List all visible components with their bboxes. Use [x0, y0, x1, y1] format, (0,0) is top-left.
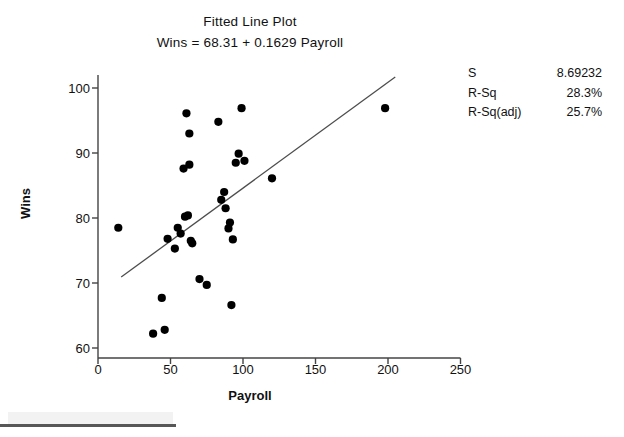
regression-line: [121, 77, 395, 277]
scatter-point: [222, 204, 230, 212]
scatter-point: [227, 301, 235, 309]
scatter-point: [240, 157, 248, 165]
scatter-point: [177, 230, 185, 238]
scatter-point: [149, 330, 157, 338]
scatter-point: [237, 104, 245, 112]
scatter-point: [232, 159, 240, 167]
scatter-point: [164, 235, 172, 243]
scatter-point: [114, 224, 122, 232]
plot-area: [0, 0, 624, 437]
fitted-regression-line: [121, 77, 395, 277]
scatter-point: [220, 188, 228, 196]
scatter-point: [214, 118, 222, 126]
scatter-point: [171, 244, 179, 252]
scatter-point: [182, 109, 190, 117]
scan-artifact-line: [0, 424, 176, 427]
scatter-point: [235, 150, 243, 158]
scatter-points-group: [114, 104, 389, 338]
scatter-point: [195, 275, 203, 283]
scatter-point: [268, 174, 276, 182]
scatter-point: [161, 326, 169, 334]
scatter-point: [185, 129, 193, 137]
fitted-line-plot-figure: Fitted Line Plot Wins = 68.31 + 0.1629 P…: [0, 0, 624, 437]
scatter-point: [381, 104, 389, 112]
scatter-point: [229, 235, 237, 243]
scatter-point: [203, 281, 211, 289]
scatter-point: [226, 218, 234, 226]
axis-lines: [98, 75, 461, 358]
scatter-point: [217, 196, 225, 204]
scatter-point: [158, 294, 166, 302]
scatter-point: [184, 211, 192, 219]
scatter-point: [185, 161, 193, 169]
scatter-point: [188, 239, 196, 247]
scan-smudge: [8, 412, 173, 424]
axis-tick-marks: [92, 88, 461, 364]
